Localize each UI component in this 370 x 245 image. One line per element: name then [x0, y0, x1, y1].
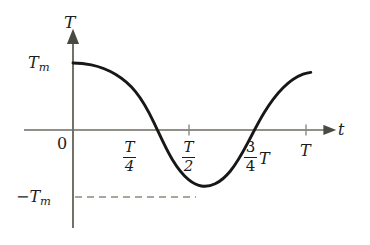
x-tick-label-t-quarter-numerator: T: [123, 140, 135, 155]
x-tick-label-t-half-numerator: T: [182, 140, 194, 155]
x-tick-label-t-half-denominator: 2: [183, 159, 195, 174]
x-tick-label-t-three-quarter-trailing: T: [259, 151, 270, 167]
x-tick-label-t-quarter-denominator: 4: [124, 159, 136, 174]
y-axis-label: T: [64, 14, 75, 31]
x-tick-label-t-half: T 2: [182, 140, 195, 174]
y-label-min: −Tm: [16, 189, 51, 207]
y-label-max: Tm: [28, 55, 50, 73]
fraction: 3 4: [244, 140, 257, 174]
y-label-max-base: T: [28, 53, 39, 72]
y-label-min-sign: −: [16, 187, 29, 206]
x-tick-label-t-three-quarter-denominator: 4: [245, 159, 257, 174]
plot-canvas: [0, 0, 370, 245]
x-tick-label-t-quarter: T 4: [123, 140, 136, 174]
y-label-min-subscript: m: [40, 194, 51, 208]
x-tick-label-t-full: T: [300, 143, 311, 159]
figure-container: T t 0 Tm −Tm T 4 T 2 3 4 T T: [0, 0, 370, 245]
x-tick-label-t-three-quarter: 3 4 T: [244, 140, 270, 174]
x-axis-label: t: [338, 122, 344, 138]
y-label-max-subscript: m: [39, 60, 50, 74]
origin-label: 0: [57, 136, 67, 152]
y-label-min-base: T: [29, 187, 40, 206]
x-tick-label-t-three-quarter-numerator: 3: [245, 140, 257, 155]
